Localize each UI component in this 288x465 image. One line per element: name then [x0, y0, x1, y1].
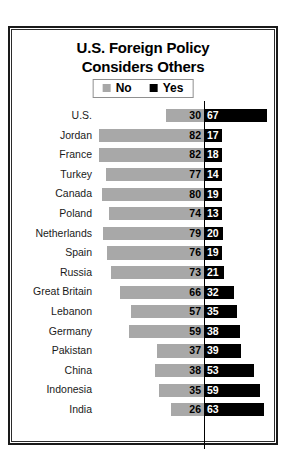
chart-row: Netherlands7920	[14, 224, 272, 244]
chart-bar-value-yes: 20	[207, 228, 219, 239]
chart-bar-value-yes: 39	[207, 345, 219, 356]
chart-bar-no: 76	[107, 246, 204, 259]
chart-bar-no: 80	[102, 188, 204, 201]
chart-bar-track: 7920	[94, 224, 272, 244]
chart-row: Canada8019	[14, 184, 272, 204]
chart-bar-track: 7714	[94, 165, 272, 185]
chart-bar-yes: 19	[204, 188, 222, 201]
chart-bar-track: 3853	[94, 361, 272, 381]
chart-bar-value-yes: 18	[207, 149, 219, 160]
chart-row: Poland7413	[14, 204, 272, 224]
chart-bar-value-no: 79	[189, 228, 201, 239]
chart-row-label: U.S.	[14, 106, 92, 126]
chart-bar-track: 2663	[94, 400, 272, 420]
chart-row-label: Poland	[14, 204, 92, 224]
chart-bar-yes: 18	[204, 148, 222, 161]
chart-bar-track: 8019	[94, 184, 272, 204]
chart-bar-value-yes: 53	[207, 365, 219, 376]
chart-title-line-1: U.S. Foreign Policy	[14, 38, 272, 57]
legend-label-yes: Yes	[163, 82, 184, 94]
chart-bar-track: 3067	[94, 106, 272, 126]
chart-row-label: Spain	[14, 243, 92, 263]
chart-bar-yes: 67	[204, 109, 267, 122]
chart-bar-track: 6632	[94, 282, 272, 302]
chart-bar-no: 30	[166, 109, 204, 122]
chart-row-label: Netherlands	[14, 224, 92, 244]
chart-row: China3853	[14, 361, 272, 381]
chart-title: U.S. Foreign Policy Considers Others	[14, 38, 272, 76]
chart-bar-value-no: 35	[189, 385, 201, 396]
chart-bar-yes: 39	[204, 344, 241, 357]
chart-bar-value-yes: 67	[207, 110, 219, 121]
legend-entry-no: No	[103, 82, 132, 94]
chart-bar-no: 77	[106, 168, 204, 181]
chart-row-label: Russia	[14, 263, 92, 283]
chart-bar-no: 38	[155, 364, 204, 377]
chart-bar-value-yes: 32	[207, 287, 219, 298]
chart-bar-track: 3739	[94, 341, 272, 361]
chart-bar-no: 82	[99, 129, 204, 142]
chart-bar-value-no: 59	[189, 326, 201, 337]
chart-bar-yes: 59	[204, 384, 260, 397]
chart-plot-area: U.S. Foreign Policy Considers Others No …	[14, 32, 272, 439]
chart-bar-value-no: 80	[189, 189, 201, 200]
chart-bar-track: 7321	[94, 263, 272, 283]
chart-bar-value-yes: 38	[207, 326, 219, 337]
chart-bar-value-no: 38	[189, 365, 201, 376]
chart-bar-yes: 14	[204, 168, 222, 181]
chart-bar-track: 5735	[94, 302, 272, 322]
chart-canvas: U.S. Foreign Policy Considers Others No …	[0, 0, 288, 465]
chart-bar-value-yes: 14	[207, 169, 219, 180]
chart-bar-track: 5938	[94, 322, 272, 342]
chart-row-label: India	[14, 400, 92, 420]
chart-bar-value-yes: 17	[207, 130, 219, 141]
chart-bar-value-no: 26	[189, 404, 201, 415]
chart-bar-yes: 32	[204, 286, 234, 299]
chart-bar-value-no: 57	[189, 306, 201, 317]
chart-row-label: Pakistan	[14, 341, 92, 361]
chart-row-label: Germany	[14, 322, 92, 342]
chart-row: Great Britain6632	[14, 282, 272, 302]
chart-bar-value-yes: 19	[207, 247, 219, 258]
chart-row-label: Canada	[14, 184, 92, 204]
chart-row: Germany5938	[14, 322, 272, 342]
chart-bar-value-yes: 35	[207, 306, 219, 317]
chart-bar-value-yes: 13	[207, 208, 219, 219]
legend-swatch-yes-icon	[150, 84, 158, 92]
chart-bar-value-yes: 19	[207, 189, 219, 200]
chart-bar-value-yes: 63	[207, 404, 219, 415]
chart-row-label: Lebanon	[14, 302, 92, 322]
chart-bar-no: 57	[131, 305, 204, 318]
chart-bar-no: 59	[129, 325, 204, 338]
legend-swatch-no-icon	[103, 84, 111, 92]
chart-bar-yes: 17	[204, 129, 222, 142]
chart-bar-value-no: 73	[189, 267, 201, 278]
chart-bar-no: 37	[157, 344, 204, 357]
legend-label-no: No	[116, 82, 132, 94]
chart-bar-rows: U.S.3067Jordan8217France8218Turkey7714Ca…	[14, 106, 272, 420]
chart-bar-value-no: 74	[189, 208, 201, 219]
chart-bar-value-no: 82	[189, 149, 201, 160]
chart-bar-track: 3559	[94, 380, 272, 400]
chart-legend: No Yes	[93, 79, 194, 98]
chart-bar-yes: 20	[204, 227, 223, 240]
chart-title-line-2: Considers Others	[14, 57, 272, 76]
chart-bar-value-no: 37	[189, 345, 201, 356]
chart-bar-track: 7413	[94, 204, 272, 224]
chart-row: Pakistan3739	[14, 341, 272, 361]
chart-bar-no: 74	[109, 207, 204, 220]
chart-bar-yes: 38	[204, 325, 240, 338]
chart-bar-value-no: 66	[189, 287, 201, 298]
chart-row: Russia7321	[14, 263, 272, 283]
chart-row: U.S.3067	[14, 106, 272, 126]
chart-row: Turkey7714	[14, 165, 272, 185]
chart-row: Jordan8217	[14, 126, 272, 146]
chart-bar-value-no: 77	[189, 169, 201, 180]
chart-bar-track: 8217	[94, 126, 272, 146]
chart-row-label: China	[14, 361, 92, 381]
chart-bar-no: 79	[103, 227, 204, 240]
chart-bar-yes: 21	[204, 266, 224, 279]
chart-bar-value-yes: 21	[207, 267, 219, 278]
chart-bar-yes: 63	[204, 403, 264, 416]
chart-row: Indonesia3559	[14, 380, 272, 400]
